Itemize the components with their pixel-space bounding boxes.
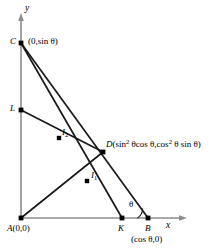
point-label-b: B xyxy=(145,224,151,233)
point-marker-d xyxy=(101,150,106,155)
point-coords-c: (0,sin θ) xyxy=(28,37,58,46)
point-label-l: L xyxy=(10,104,15,113)
segment-a-d xyxy=(21,152,103,218)
point-marker-b xyxy=(146,216,151,221)
segment-c-k xyxy=(21,43,122,218)
x-axis-label: x xyxy=(166,221,170,231)
point-label-d: D(sin2 θcos θ,cos2 θ sin θ) xyxy=(106,139,201,149)
point-coords-d-mid: θcos θ,cos xyxy=(132,139,169,149)
point-coords-d-open: (sin xyxy=(113,139,127,149)
point-label-c: C xyxy=(10,37,16,46)
point-label-i1: I1 xyxy=(91,171,97,182)
point-coords-b: (cos θ,0) xyxy=(131,235,162,244)
point-marker-l xyxy=(19,108,24,113)
angle-label-theta: θ xyxy=(129,200,133,209)
point-marker-c xyxy=(19,41,24,46)
geometry-figure: y x C (0,sin θ) L D(sin2 θcos θ,cos2 θ s… xyxy=(0,0,216,250)
point-marker-i1 xyxy=(85,179,89,183)
segment-c-b xyxy=(21,43,148,218)
point-coords-d-sup2: 2 xyxy=(169,138,172,145)
point-coords-d-end: θ sin θ) xyxy=(174,139,201,149)
point-marker-a xyxy=(19,216,24,221)
point-label-i2-subscript: 2 xyxy=(65,131,68,138)
point-label-k: K xyxy=(118,224,124,233)
point-coords-d-sup1: 2 xyxy=(126,138,129,145)
point-label-a: A(0,0) xyxy=(7,224,30,233)
point-coords-a: (0,0) xyxy=(13,223,30,233)
point-marker-k xyxy=(120,216,125,221)
x-axis-arrowhead xyxy=(179,215,187,221)
point-marker-i2 xyxy=(57,136,61,140)
y-axis-label: y xyxy=(25,4,29,14)
point-label-i2: I2 xyxy=(62,128,68,139)
y-axis-arrowhead xyxy=(18,13,24,21)
point-label-i1-subscript: 1 xyxy=(94,174,97,181)
